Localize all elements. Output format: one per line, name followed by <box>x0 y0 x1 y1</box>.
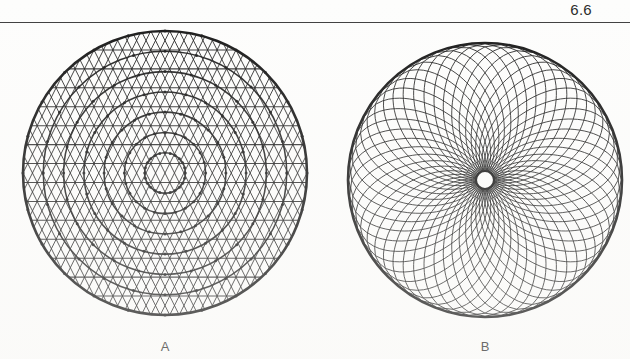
panel-a-diagram <box>22 30 309 317</box>
figure-canvas <box>0 24 630 359</box>
page-header: 6.6 <box>0 0 630 26</box>
header-rule <box>0 22 630 23</box>
figure-caption-a: A <box>145 339 185 354</box>
panel-b-diagram <box>348 43 622 317</box>
figure-area: A B <box>0 24 630 359</box>
figure-caption-b: B <box>465 339 505 354</box>
page-number: 6.6 <box>570 1 592 18</box>
